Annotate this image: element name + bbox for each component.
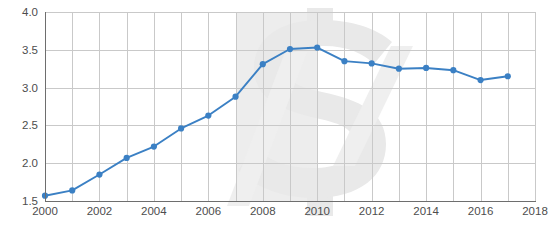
data-series	[45, 12, 535, 201]
data-point	[69, 187, 75, 193]
y-axis-tick-label: 2.0	[0, 158, 38, 170]
x-axis-tick-label: 2010	[295, 206, 339, 218]
data-point	[369, 60, 375, 66]
data-point	[287, 46, 293, 52]
data-point	[423, 65, 429, 71]
x-axis-tick-label: 2018	[513, 206, 557, 218]
y-axis-tick-label: 3.5	[0, 45, 38, 57]
x-axis-tick-label: 2002	[77, 206, 121, 218]
data-point	[178, 125, 184, 131]
data-point	[96, 171, 102, 177]
x-axis-tick-label: 2014	[404, 206, 448, 218]
gridline-vertical	[535, 12, 536, 201]
data-point	[232, 94, 238, 100]
y-axis-tick-label: 3.0	[0, 83, 38, 95]
x-axis-tick-label: 2016	[459, 206, 503, 218]
series-line	[45, 48, 508, 196]
data-point	[450, 67, 456, 73]
x-axis-tick-label: 2000	[23, 206, 67, 218]
data-point	[260, 61, 266, 67]
x-axis-line	[45, 201, 536, 202]
data-point	[477, 77, 483, 83]
line-chart: Billions of dollars 4.03.53.02.52.01.5 2…	[0, 0, 559, 248]
data-point	[124, 155, 130, 161]
data-point	[151, 143, 157, 149]
plot-area	[45, 12, 535, 201]
y-axis-tick-label: 2.5	[0, 120, 38, 132]
y-axis-line	[45, 12, 46, 202]
data-point	[396, 66, 402, 72]
y-axis-tick-label: 4.0	[0, 7, 38, 19]
data-point	[314, 44, 320, 50]
data-point	[505, 73, 511, 79]
x-axis-tick-label: 2008	[241, 206, 285, 218]
data-point	[205, 112, 211, 118]
x-axis-tick-label: 2006	[186, 206, 230, 218]
x-axis-tick-label: 2012	[350, 206, 394, 218]
data-point	[341, 58, 347, 64]
x-axis-tick-label: 2004	[132, 206, 176, 218]
